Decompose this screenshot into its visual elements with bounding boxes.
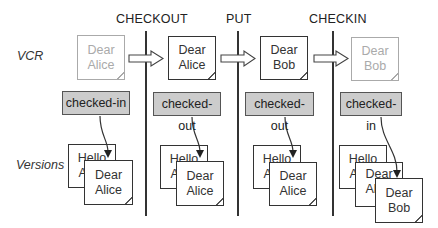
block-arrow-icon	[129, 51, 348, 66]
arrows-overlay	[0, 0, 438, 228]
curved-arrow-icon	[100, 116, 397, 172]
arrowhead-icon	[104, 150, 401, 178]
